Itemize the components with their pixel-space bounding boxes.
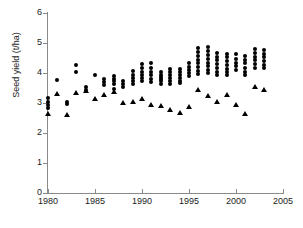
data-point-triangle <box>252 84 258 89</box>
x-tick-mark <box>283 189 284 194</box>
data-point-circle <box>225 63 229 67</box>
data-point-circle <box>215 73 219 77</box>
data-point-circle <box>178 81 182 85</box>
data-point-triangle <box>224 92 230 97</box>
data-point-circle <box>253 51 257 55</box>
y-tick-label: 2 <box>0 128 42 137</box>
data-point-triangle <box>139 96 145 101</box>
data-point-circle <box>234 57 238 61</box>
data-point-circle <box>131 69 135 73</box>
data-point-triangle <box>214 99 220 104</box>
data-point-circle <box>253 66 257 70</box>
data-point-circle <box>262 48 266 52</box>
chart-title-area <box>0 0 303 8</box>
x-axis-line <box>47 193 283 194</box>
y-tick-label: 5 <box>0 38 42 47</box>
data-point-circle <box>206 57 210 61</box>
y-tick-label: 4 <box>0 68 42 77</box>
data-point-triangle <box>45 111 51 116</box>
data-point-circle <box>196 46 200 50</box>
data-point-triangle <box>54 91 60 96</box>
data-point-circle <box>46 106 50 110</box>
data-point-triangle <box>111 89 117 94</box>
data-point-triangle <box>73 90 79 95</box>
data-point-triangle <box>92 96 98 101</box>
x-tick-label: 1990 <box>122 196 162 206</box>
data-point-circle <box>215 66 219 70</box>
data-point-triangle <box>205 93 211 98</box>
data-point-triangle <box>261 87 267 92</box>
x-tick-label: 2000 <box>216 196 256 206</box>
data-point-triangle <box>130 99 136 104</box>
data-point-triangle <box>195 87 201 92</box>
data-point-triangle <box>101 92 107 97</box>
data-point-circle <box>93 73 97 77</box>
y-tick-label: 1 <box>0 158 42 167</box>
data-point-triangle <box>167 107 173 112</box>
data-point-triangle <box>233 102 239 107</box>
x-tick-label: 1995 <box>169 196 209 206</box>
data-point-triangle <box>158 103 164 108</box>
x-tick-label: 2005 <box>263 196 303 206</box>
data-point-triangle <box>242 111 248 116</box>
x-tick-label: 1985 <box>75 196 115 206</box>
y-tick-label-text: 6 <box>8 8 42 17</box>
x-tick-label: 1980 <box>28 196 68 206</box>
data-point-circle <box>215 51 219 55</box>
data-point-circle <box>206 45 210 49</box>
plot-area <box>48 13 283 193</box>
data-point-triangle <box>64 112 70 117</box>
data-point-triangle <box>186 104 192 109</box>
y-tick-label-text: 3 <box>8 98 42 107</box>
data-point-triangle <box>83 88 89 93</box>
data-point-circle <box>65 102 69 106</box>
data-point-circle <box>262 66 266 70</box>
data-point-triangle <box>177 110 183 115</box>
data-point-circle <box>140 79 144 83</box>
y-tick-label-text: 1 <box>8 158 42 167</box>
y-tick-label: 3 <box>0 98 42 107</box>
data-point-triangle <box>148 102 154 107</box>
data-point-circle <box>187 74 191 78</box>
y-tick-label-text: 4 <box>8 68 42 77</box>
data-point-circle <box>206 71 210 75</box>
data-point-circle <box>131 82 135 86</box>
data-point-triangle <box>120 100 126 105</box>
data-point-circle <box>140 66 144 70</box>
data-point-circle <box>234 68 238 72</box>
data-point-circle <box>121 85 125 89</box>
y-tick-label-text: 5 <box>8 38 42 47</box>
y-tick-label-text: 2 <box>8 128 42 137</box>
data-point-circle <box>46 96 50 100</box>
y-tick-label: 6 <box>0 8 42 17</box>
scatter-chart: Seed yield (t/ha) 0123456 19801985199019… <box>0 0 303 228</box>
